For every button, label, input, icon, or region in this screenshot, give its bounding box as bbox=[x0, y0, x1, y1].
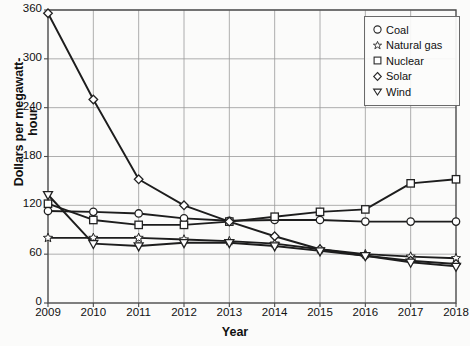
y-axis-label: Dollars per megawatt-hour bbox=[12, 52, 40, 192]
x-tick-label: 2014 bbox=[249, 306, 301, 318]
x-tick-label: 2009 bbox=[22, 306, 74, 318]
square-icon bbox=[371, 55, 384, 66]
series-coal bbox=[44, 207, 459, 225]
y-tick-label: 120 bbox=[2, 197, 42, 209]
legend-item[interactable]: Solar bbox=[371, 69, 453, 85]
legend-label: Nuclear bbox=[384, 55, 424, 67]
triangle-down-icon bbox=[371, 86, 384, 97]
x-tick-label: 2010 bbox=[67, 306, 119, 318]
x-axis-label: Year bbox=[0, 325, 470, 339]
y-tick-label: 60 bbox=[2, 246, 42, 258]
star-icon bbox=[371, 40, 384, 51]
x-tick-label: 2017 bbox=[385, 306, 437, 318]
y-tick-label: 360 bbox=[2, 2, 42, 14]
x-tick-label: 2018 bbox=[430, 306, 470, 318]
legend-label: Coal bbox=[384, 24, 409, 36]
circle-icon bbox=[371, 24, 384, 35]
series-natural-gas bbox=[43, 233, 460, 262]
x-tick-label: 2016 bbox=[339, 306, 391, 318]
legend-item[interactable]: Nuclear bbox=[371, 53, 453, 69]
legend-item[interactable]: Coal bbox=[371, 22, 453, 38]
y-tick-label: 240 bbox=[2, 100, 42, 112]
x-tick-label: 2012 bbox=[158, 306, 210, 318]
legend-label: Natural gas bbox=[384, 39, 442, 51]
x-tick-label: 2015 bbox=[294, 306, 346, 318]
legend-label: Wind bbox=[384, 86, 411, 98]
legend-item[interactable]: Natural gas bbox=[371, 38, 453, 54]
legend-item[interactable]: Wind bbox=[371, 84, 453, 100]
legend-label: Solar bbox=[384, 70, 412, 82]
y-tick-label: 0 bbox=[2, 295, 42, 307]
line-chart: Dollars per megawatt-hour Year 200920102… bbox=[0, 0, 470, 346]
y-tick-label: 180 bbox=[2, 149, 42, 161]
y-tick-label: 300 bbox=[2, 51, 42, 63]
x-tick-label: 2013 bbox=[203, 306, 255, 318]
chart-legend: Coal Natural gas Nuclear Solar Wind bbox=[364, 16, 460, 106]
diamond-icon bbox=[371, 71, 384, 82]
x-tick-label: 2011 bbox=[113, 306, 165, 318]
